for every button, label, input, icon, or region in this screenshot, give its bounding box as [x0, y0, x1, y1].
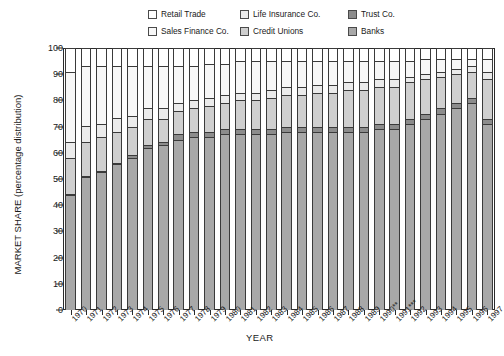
bar-segment: [266, 98, 276, 129]
bar-segment: [359, 132, 369, 310]
bar-segment: [189, 66, 199, 100]
bar-segment: [65, 48, 75, 72]
bar-segment: [96, 172, 106, 310]
y-axis-tick-mark: [56, 100, 63, 101]
bar-segment: [359, 61, 369, 82]
bar-stack: [312, 48, 322, 310]
bar-segment: [173, 48, 183, 66]
bar-segment: [389, 61, 399, 79]
bar-segment: [451, 74, 461, 103]
bar-stack: [143, 48, 153, 310]
bar-stack: [281, 48, 291, 310]
bar-segment: [158, 119, 168, 143]
bar-stack: [251, 48, 261, 310]
bar-segment: [235, 48, 245, 61]
bar-segment: [467, 59, 477, 67]
bar-segment: [451, 48, 461, 58]
bar-stack: [436, 48, 446, 310]
x-axis-title: YEAR: [246, 332, 273, 343]
bar-segment: [328, 48, 338, 61]
bar-segment: [189, 137, 199, 310]
bar-segment: [251, 48, 261, 61]
bar-segment: [328, 132, 338, 310]
bar-segment: [173, 140, 183, 310]
bar-segment: [266, 48, 276, 61]
bar-stack: [420, 48, 430, 310]
bar-segment: [127, 158, 137, 310]
bar-stack: [405, 48, 415, 310]
bar-segment: [420, 59, 430, 75]
y-axis-tick-mark: [56, 231, 63, 232]
bar-segment: [65, 72, 75, 142]
bar-segment: [158, 145, 168, 310]
bar-segment: [81, 142, 91, 176]
bar-segment: [220, 48, 230, 64]
y-axis-tick-mark: [56, 74, 63, 75]
bar-segment: [189, 108, 199, 132]
bar-segment: [436, 114, 446, 311]
bar-segment: [451, 59, 461, 69]
bar-segment: [359, 48, 369, 61]
bar-stack: [112, 48, 122, 310]
bar-segment: [204, 48, 214, 64]
bar-segment: [297, 48, 307, 61]
bar-segment: [127, 48, 137, 66]
bar-segment: [389, 79, 399, 87]
bar-stack: [96, 48, 106, 310]
bar-segment: [420, 119, 430, 310]
bar-segment: [482, 79, 492, 118]
legend-entry: Life Insurance Co.: [240, 10, 348, 19]
bar-segment: [343, 132, 353, 310]
bar-segment: [312, 48, 322, 61]
bar-segment: [436, 59, 446, 72]
bar-segment: [65, 195, 75, 310]
bar-segment: [220, 64, 230, 95]
bar-segment: [251, 61, 261, 92]
y-axis-title: MARKET SHARE (percentage distribution): [12, 75, 23, 295]
bar-stack: [158, 48, 168, 310]
bar-segment: [374, 79, 384, 87]
legend-swatch-icon: [240, 10, 249, 19]
bar-segment: [143, 108, 153, 118]
y-axis-tick-mark: [56, 48, 63, 49]
bar-segment: [204, 64, 214, 98]
legend-entry: Credit Unions: [240, 27, 348, 36]
bar-segment: [158, 48, 168, 66]
bar-segment: [328, 85, 338, 93]
bar-segment: [482, 72, 492, 80]
bar-segment: [204, 98, 214, 106]
bar-segment: [266, 90, 276, 98]
bar-segment: [81, 126, 91, 142]
bar-stack: [451, 48, 461, 310]
bar-segment: [405, 48, 415, 61]
bar-segment: [189, 48, 199, 66]
bar-segment: [96, 124, 106, 137]
bar-segment: [173, 103, 183, 111]
bar-segment: [143, 48, 153, 66]
bar-segment: [158, 108, 168, 118]
bar-stack: [81, 48, 91, 310]
legend-swatch-icon: [240, 27, 249, 36]
bar-segment: [451, 108, 461, 310]
bar-segment: [281, 48, 291, 61]
bar-segment: [112, 164, 122, 310]
bar-stack: [189, 48, 199, 310]
bar-segment: [173, 111, 183, 135]
legend-swatch-icon: [348, 10, 357, 19]
legend-swatch-icon: [148, 27, 157, 36]
bar-segment: [266, 134, 276, 310]
bar-segment: [127, 116, 137, 126]
bar-segment: [467, 103, 477, 310]
bar-stack: [204, 48, 214, 310]
bar-segment: [343, 82, 353, 90]
y-axis-tick-mark: [56, 283, 63, 284]
bar-segment: [343, 61, 353, 82]
bar-stack: [220, 48, 230, 310]
y-axis-tick-mark: [56, 152, 63, 153]
bar-segment: [112, 66, 122, 118]
bar-segment: [143, 66, 153, 108]
chart-figure: Retail TradeLife Insurance Co.Trust Co.S…: [0, 0, 504, 356]
y-axis: 0102030405060708090100: [29, 0, 63, 356]
bar-segment: [297, 95, 307, 126]
bar-segment: [374, 48, 384, 61]
